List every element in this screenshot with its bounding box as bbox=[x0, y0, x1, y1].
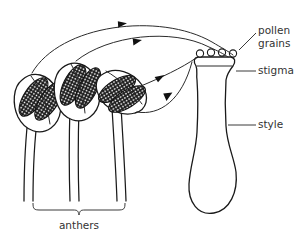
pollination-diagram: pollen grains stigma style anthers bbox=[0, 0, 303, 240]
pistil bbox=[189, 57, 236, 213]
pollen-grain bbox=[207, 49, 214, 56]
label-pollen-grains-line1: pollen bbox=[258, 24, 290, 36]
anther-group bbox=[14, 61, 150, 132]
anthers-brace bbox=[33, 203, 125, 215]
label-anthers: anthers bbox=[59, 219, 99, 231]
leader-pollen-grains bbox=[239, 33, 256, 50]
filament-3 bbox=[112, 107, 126, 201]
label-group: pollen grains stigma style anthers bbox=[59, 24, 294, 231]
pollen-grain bbox=[196, 50, 203, 57]
label-pollen-grains-line2: grains bbox=[258, 37, 290, 49]
anther-3 bbox=[94, 70, 149, 117]
pistil-body bbox=[189, 57, 236, 213]
label-stigma: stigma bbox=[258, 64, 294, 76]
label-style: style bbox=[258, 118, 283, 130]
transfer-arrow-3 bbox=[141, 58, 196, 86]
diagram-canvas: pollen grains stigma style anthers bbox=[0, 0, 303, 240]
leader-lines bbox=[228, 33, 256, 125]
